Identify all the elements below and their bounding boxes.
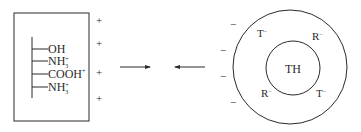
group-label-cooh: COOH+ — [48, 67, 86, 81]
center-label: TH — [285, 62, 301, 76]
positive-charge: + — [96, 37, 102, 49]
right-arrow — [120, 65, 151, 69]
negative-charge: − — [220, 44, 226, 56]
ring-label-t: T− — [316, 87, 327, 99]
ring-label-r: R− — [312, 30, 323, 42]
group-label-nh3-2: NH3+ — [48, 80, 69, 95]
positive-charge: + — [96, 92, 102, 104]
negative-charge: − — [230, 18, 236, 30]
diagram-canvas: OH NH3+ COOH+ NH3+ + + + + − − − − T− R−… — [0, 0, 361, 132]
ring-label-t: T− — [257, 27, 268, 39]
positive-charge: + — [96, 66, 102, 78]
ring-label-r: R− — [261, 87, 272, 99]
left-arrow — [174, 65, 205, 69]
negative-charge: − — [230, 96, 236, 108]
positive-charge: + — [96, 14, 102, 26]
negative-charge: − — [220, 70, 226, 82]
